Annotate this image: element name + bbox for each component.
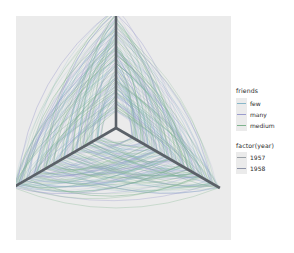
legend-label-medium: medium [250,120,275,131]
figure-root: friends few many medium fac [0,0,294,253]
edge-bundle-group [16,16,219,208]
legend-item-medium[interactable]: medium [236,120,292,131]
legend-label-few: few [250,98,261,109]
legend-swatch-few [236,98,247,109]
hive-plot-svg [16,16,231,240]
legend-title-factor-year: factor(year) [236,141,292,150]
legend-friends: friends few many medium [236,86,292,131]
plot-panel [16,16,231,240]
legend-label-1958: 1958 [250,163,265,174]
legend-container: friends few many medium fac [236,86,292,184]
legend-title-friends: friends [236,86,292,95]
legend-item-1957[interactable]: 1957 [236,152,292,163]
legend-factor-year: factor(year) 1957 1958 [236,141,292,175]
legend-swatch-medium [236,120,247,131]
legend-item-1958[interactable]: 1958 [236,163,292,174]
legend-item-many[interactable]: many [236,109,292,120]
legend-item-few[interactable]: few [236,98,292,109]
legend-swatch-many [236,109,247,120]
legend-label-1957: 1957 [250,152,265,163]
legend-label-many: many [250,109,267,120]
legend-swatch-1958 [236,163,247,174]
legend-swatch-1957 [236,152,247,163]
